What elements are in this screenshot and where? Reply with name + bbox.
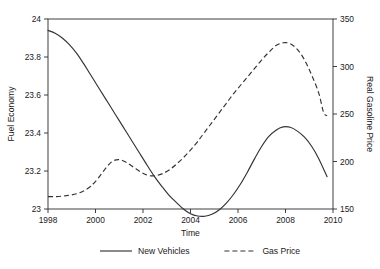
x-tick-label: 2000	[86, 215, 105, 225]
x-tick-label: 1998	[39, 215, 58, 225]
x-tick-label: 2006	[229, 215, 248, 225]
x-tick-label: 2008	[276, 215, 295, 225]
y-right-axis-title: Real Gasoline Price	[365, 76, 375, 152]
y-right-tick-label: 250	[340, 109, 354, 119]
y-right-tick-label: 300	[340, 62, 354, 72]
x-tick-label: 2002	[134, 215, 153, 225]
y-left-tick-label: 23.2	[25, 166, 42, 176]
legend-label-gas-price: Gas Price	[262, 246, 300, 256]
dual-axis-line-chart: 1998200020022004200620082010Time2323.223…	[0, 0, 380, 269]
y-right-tick-label: 350	[340, 14, 354, 24]
y-left-tick-label: 23	[32, 204, 42, 214]
y-left-tick-label: 23.4	[25, 128, 42, 138]
y-right-tick-label: 150	[340, 204, 354, 214]
x-tick-label: 2010	[324, 215, 343, 225]
y-left-tick-label: 23.6	[25, 90, 42, 100]
y-left-axis-title: Fuel Economy	[6, 86, 16, 142]
x-axis-title: Time	[181, 228, 200, 238]
legend-label-new-vehicles: New Vehicles	[138, 246, 190, 256]
plot-frame	[48, 19, 333, 209]
series-line-gas-price	[48, 43, 327, 197]
y-left-tick-label: 24	[32, 14, 42, 24]
y-left-tick-label: 23.8	[25, 52, 42, 62]
chart-figure: 1998200020022004200620082010Time2323.223…	[0, 0, 380, 269]
y-right-tick-label: 200	[340, 157, 354, 167]
series-line-new-vehicles	[48, 30, 327, 216]
